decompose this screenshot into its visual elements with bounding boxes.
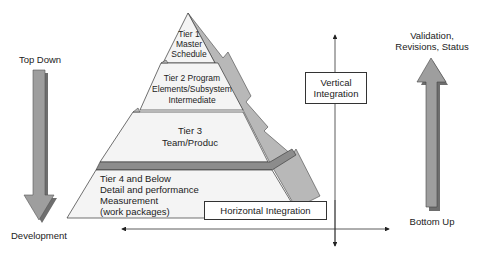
- tier2-label: Tier 2 Program Elements/Subsystem Interm…: [140, 73, 244, 106]
- validation-label-line2: Revisions, Status: [392, 41, 472, 52]
- tier1-label: Tier 1 Master Schedule: [164, 29, 214, 59]
- tier3-line1: Tier 3: [140, 125, 240, 137]
- development-label: Development: [6, 230, 72, 241]
- tier2-line3: Intermediate: [140, 95, 244, 106]
- bottom-up-label: Bottom Up: [404, 216, 460, 227]
- tier4-line1: Tier 4 and Below: [100, 173, 230, 184]
- validation-label-line1: Validation,: [392, 30, 472, 41]
- vertical-integration-box: Vertical Integration: [305, 72, 367, 104]
- horizontal-integration-label: Horizontal Integration: [220, 205, 310, 216]
- bottom-up-arrow-icon: [417, 58, 448, 211]
- tier3-label: Tier 3 Team/Produc: [140, 125, 240, 149]
- tier2-line1: Tier 2 Program: [140, 73, 244, 84]
- horizontal-integration-box: Horizontal Integration: [204, 201, 327, 220]
- tier4-line2: Detail and performance: [100, 184, 230, 195]
- top-down-arrow-icon: [24, 70, 57, 223]
- tier2-line2: Elements/Subsystem: [140, 84, 244, 95]
- tier1-line1: Tier 1: [164, 29, 214, 39]
- tier3-line2: Team/Produc: [140, 137, 240, 149]
- vertical-integration-line2: Integration: [314, 88, 359, 99]
- validation-label: Validation, Revisions, Status: [392, 30, 472, 52]
- top-down-label: Top Down: [12, 54, 68, 65]
- tier1-line3: Schedule: [164, 49, 214, 59]
- tier1-line2: Master: [164, 39, 214, 49]
- vertical-integration-line1: Vertical: [320, 77, 351, 88]
